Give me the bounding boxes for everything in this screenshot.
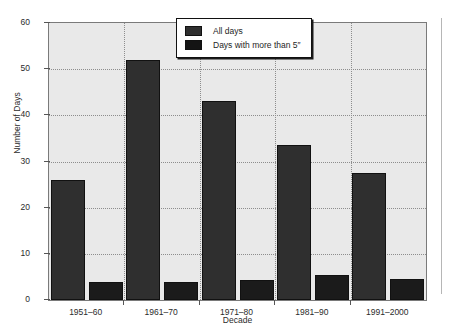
y-tick-label: 0 <box>25 294 30 304</box>
legend-item-all-days: All days <box>185 24 301 38</box>
x-tick-mark <box>199 300 200 305</box>
legend-swatch-days-more-than-5in <box>185 40 202 50</box>
y-tick-label: 60 <box>21 17 30 27</box>
y-tick-mark <box>44 207 50 208</box>
y-axis-title: Number of Days <box>12 68 22 178</box>
chart-legend: All days Days with more than 5″ <box>176 18 312 58</box>
x-tick-mark <box>123 300 124 305</box>
y-tick-mark <box>44 68 50 69</box>
x-tick-mark <box>350 300 351 305</box>
gridline-horizontal <box>49 162 426 163</box>
bar <box>352 173 386 300</box>
legend-item-days-more-than-5in: Days with more than 5″ <box>185 38 301 52</box>
plot-area <box>48 22 427 301</box>
bar <box>126 60 160 300</box>
legend-label-all-days: All days <box>213 26 243 36</box>
bar <box>51 180 85 300</box>
bar <box>202 101 236 300</box>
gridline-horizontal <box>49 115 426 116</box>
plot-inner <box>49 23 426 300</box>
bar <box>89 282 123 300</box>
y-tick-mark <box>44 253 50 254</box>
y-tick-label: 20 <box>21 202 30 212</box>
page-margin-rule <box>441 18 442 294</box>
bar <box>240 280 274 300</box>
x-tick-mark <box>274 300 275 305</box>
legend-swatch-all-days <box>185 26 202 36</box>
y-tick-label: 10 <box>21 248 30 258</box>
bar <box>277 145 311 300</box>
y-tick-mark <box>44 161 50 162</box>
bar-chart-figure: 0102030405060 1951–601961–701971–801981–… <box>0 0 456 333</box>
bar <box>164 282 198 300</box>
y-tick-mark <box>44 22 50 23</box>
bar <box>315 275 349 300</box>
y-tick-mark <box>44 114 50 115</box>
x-axis-title: Decade <box>48 315 427 325</box>
bar <box>390 279 424 300</box>
gridline-horizontal <box>49 69 426 70</box>
legend-label-days-more-than-5in: Days with more than 5″ <box>213 40 301 50</box>
